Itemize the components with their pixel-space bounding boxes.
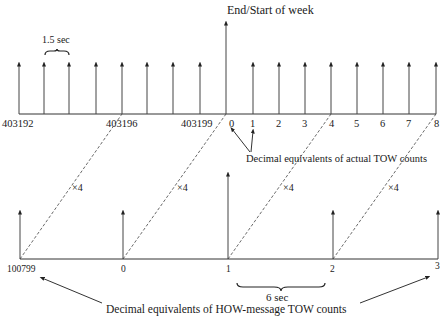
axis-label: 1 bbox=[226, 264, 231, 274]
axis-label: 403199 bbox=[181, 118, 213, 129]
connector-line bbox=[333, 114, 436, 259]
axis-label: ×4 bbox=[388, 182, 399, 193]
pointer-arrow-icon bbox=[360, 277, 428, 303]
multiplier-labels: ×4×4×4×4 bbox=[72, 182, 399, 193]
axis-label: 8 bbox=[434, 118, 439, 129]
interval-6-sec: 6 sec bbox=[237, 283, 325, 303]
axis-label: ×4 bbox=[177, 182, 188, 193]
tow-count-diagram: End/Start of week 4031924031964031990123… bbox=[0, 0, 444, 317]
axis-label: 2 bbox=[330, 264, 335, 274]
pointer-arrow-icon bbox=[42, 278, 102, 303]
axis-label: 3 bbox=[302, 118, 307, 129]
axis-label: 0 bbox=[121, 264, 126, 274]
week-boundary-title: End/Start of week bbox=[227, 3, 314, 17]
top-axis-ticks bbox=[19, 23, 436, 114]
axis-label: ×4 bbox=[72, 182, 83, 193]
large-brace-icon bbox=[237, 283, 325, 291]
axis-label: 0 bbox=[229, 118, 234, 129]
axis-label: 3 bbox=[435, 261, 440, 271]
interval-1-5-sec: 1.5 sec bbox=[42, 34, 70, 55]
connector-line bbox=[20, 114, 122, 259]
how-tow-pointer: Decimal equivalents of HOW-message TOW c… bbox=[42, 277, 428, 316]
axis-label: 5 bbox=[354, 118, 359, 129]
axis-label: 100799 bbox=[7, 264, 36, 274]
pointer-arrow-icon bbox=[232, 129, 250, 152]
axis-label: 7 bbox=[406, 118, 411, 129]
axis-label: 1 bbox=[250, 118, 255, 129]
axis-label: ×4 bbox=[283, 182, 294, 193]
actual-tow-pointer: Decimal equivalents of actual TOW counts bbox=[232, 129, 427, 164]
axis-label: 6 bbox=[380, 118, 385, 129]
top-axis-labels: 403192403196403199012345678 bbox=[2, 118, 439, 129]
axis-label: 2 bbox=[276, 118, 281, 129]
bottom-axis-ticks bbox=[20, 174, 438, 259]
connector-line bbox=[123, 114, 226, 259]
connector-line bbox=[228, 114, 331, 259]
small-brace-icon bbox=[45, 49, 69, 55]
bottom-axis-labels: 1007990123 bbox=[7, 261, 440, 274]
interval-1-5-sec-label: 1.5 sec bbox=[42, 34, 70, 45]
axis-label: 403196 bbox=[106, 118, 138, 129]
how-tow-label: Decimal equivalents of HOW-message TOW c… bbox=[106, 303, 347, 316]
axis-label: 4 bbox=[329, 118, 335, 129]
axis-label: 403192 bbox=[2, 118, 34, 129]
pointer-arrow-icon bbox=[251, 131, 253, 152]
interval-6-sec-label: 6 sec bbox=[266, 291, 288, 303]
actual-tow-label: Decimal equivalents of actual TOW counts bbox=[246, 153, 427, 164]
